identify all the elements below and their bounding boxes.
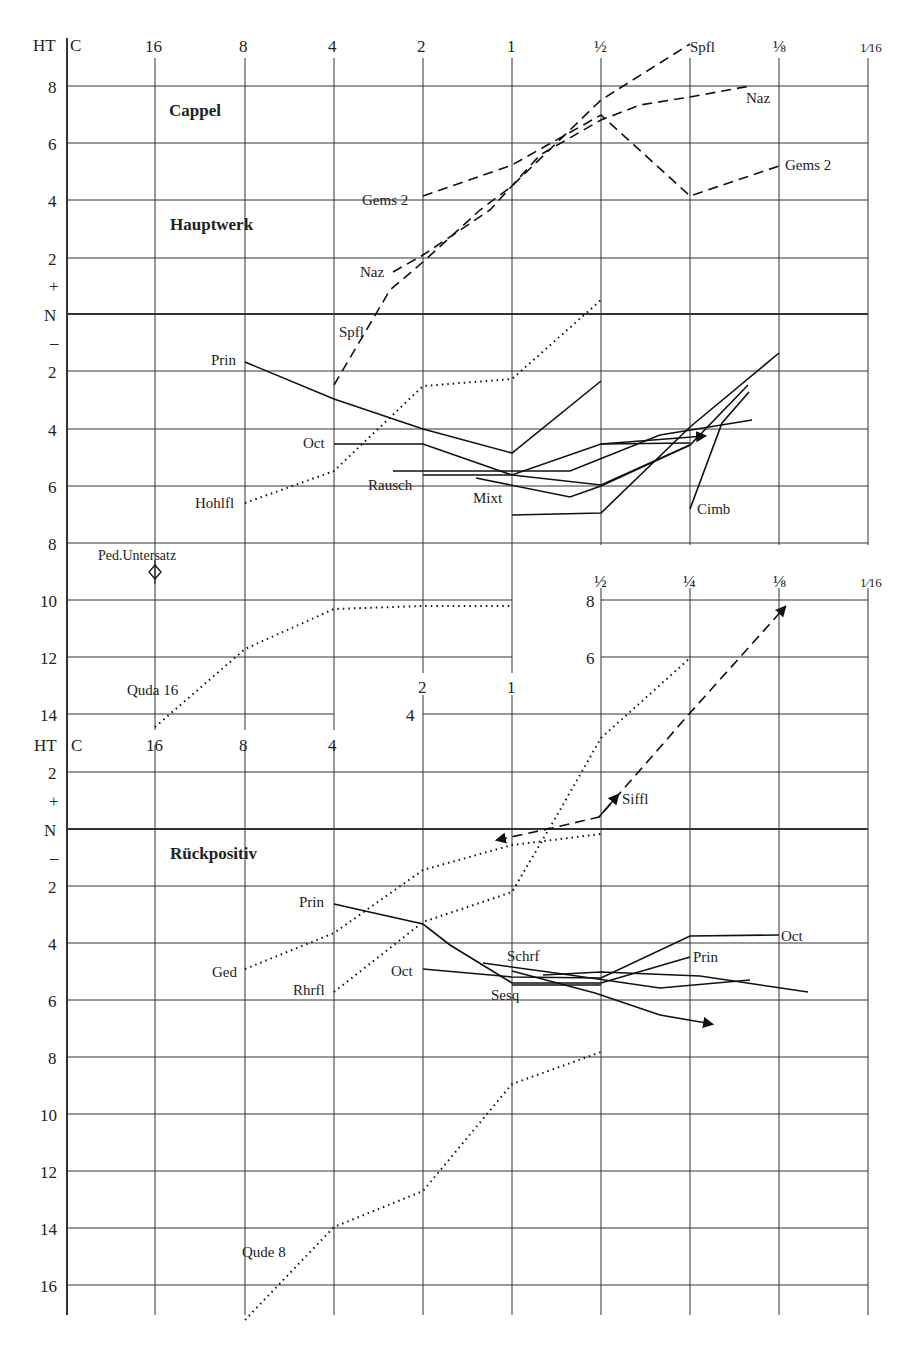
lower-y-tick-n: N [44, 821, 56, 840]
lower-y-tick-2: 2 [48, 764, 57, 783]
lower-series-labels: Siffl Prin Ged Rhrfl Oct Schrf Sesq Oct … [212, 791, 803, 1260]
inset-x-sixteenth: 1⁄16 [860, 575, 882, 590]
lower-c-label: C [71, 736, 82, 755]
lower-y-tick-neg8: 8 [48, 1049, 57, 1068]
y-tick-neg14: 14 [40, 706, 58, 725]
title-cappel: Cappel [169, 101, 221, 120]
label-naz-left: Naz [360, 264, 384, 280]
lower-ht-label: HT [34, 736, 57, 755]
label-qude8: Qude 8 [242, 1244, 286, 1260]
lower-x-tick-16: 16 [146, 736, 163, 755]
y-tick-2: 2 [48, 250, 57, 269]
x-tick-1: 1 [507, 37, 516, 56]
lower-y-tick-neg10: 10 [40, 1106, 57, 1125]
lower-x-tick-8: 8 [239, 736, 248, 755]
label-hohlfl: Hohlfl [195, 495, 234, 511]
series-rausch [393, 420, 752, 471]
x-tick-16: 16 [145, 37, 162, 56]
y-tick-4: 4 [48, 192, 57, 211]
inset-y-8: 8 [586, 592, 595, 611]
label-cimb: Cimb [697, 501, 730, 517]
x-tick-8: 8 [239, 37, 248, 56]
inset-x-quarter: ¼ [683, 572, 696, 591]
lower-y-tick-neg4: 4 [48, 935, 57, 954]
label-siffl: Siffl [622, 791, 648, 807]
y-tick-neg8: 8 [48, 535, 57, 554]
label-quda16: Quda 16 [127, 682, 179, 698]
x-tick-4: 4 [328, 37, 337, 56]
upper-axis-labels: HT C 16 8 4 2 1 ½ ⅛ 1⁄16 8 6 4 2 + N – 2… [33, 36, 882, 725]
y-tick-neg6: 6 [48, 478, 57, 497]
label-prin-rp-right: Prin [693, 949, 719, 965]
lower-y-tick-neg14: 14 [40, 1220, 58, 1239]
label-rausch: Rausch [368, 477, 413, 493]
x-tick-2: 2 [417, 37, 426, 56]
x-tick-half: ½ [594, 37, 607, 56]
label-gems2-left: Gems 2 [362, 192, 408, 208]
series-naz [393, 86, 750, 272]
label-oct-hw: Oct [303, 435, 325, 451]
series-cimb [690, 392, 749, 509]
lower-y-tick-neg12: 12 [40, 1163, 57, 1182]
inset-x-2: 2 [418, 678, 427, 697]
label-spfl-top: Spfl [690, 39, 715, 55]
y-tick-neg12: 12 [40, 649, 57, 668]
label-sesq: Sesq [491, 987, 520, 1003]
inset-y-4: 4 [406, 706, 415, 725]
label-oct-rp-right: Oct [781, 928, 803, 944]
title-rueckpositiv: Rückpositiv [170, 844, 257, 863]
lower-y-tick-neg6: 6 [48, 992, 57, 1011]
label-prin-hw: Prin [211, 352, 237, 368]
inset-x-half: ½ [594, 572, 607, 591]
lower-grid [67, 730, 868, 1315]
upper-series-labels: Gems 2 Gems 2 Naz Naz Spfl Spfl Prin Oct… [98, 39, 831, 698]
lower-y-tick-neg16: 16 [40, 1277, 57, 1296]
label-prin-rp-left: Prin [299, 894, 325, 910]
inset-x-eighth: ⅛ [773, 572, 786, 591]
ht-label: HT [33, 36, 56, 55]
inset-y-6: 6 [586, 649, 595, 668]
label-ged: Ged [212, 964, 237, 980]
label-oct-rp-left: Oct [391, 963, 413, 979]
series-sesq [512, 971, 712, 1024]
y-tick-minus: – [49, 333, 59, 352]
lower-axis-labels: HT C 16 8 4 2 + N – 2 4 6 8 10 12 14 16 [34, 736, 337, 1296]
label-naz-right: Naz [746, 90, 770, 106]
label-ped-untersatz: Ped.Untersatz [98, 548, 176, 563]
c-label: C [70, 36, 81, 55]
series-mixt-2 [512, 353, 779, 515]
lower-y-tick-neg2: 2 [48, 878, 57, 897]
y-tick-neg4: 4 [48, 421, 57, 440]
x-tick-eighth: ⅛ [773, 37, 786, 56]
x-tick-sixteenth: 1⁄16 [860, 40, 882, 55]
label-spfl-left: Spfl [339, 324, 364, 340]
y-tick-n: N [44, 306, 56, 325]
y-tick-plus: + [49, 277, 59, 296]
lower-x-tick-4: 4 [328, 736, 337, 755]
lower-y-tick-minus: – [49, 848, 59, 867]
y-tick-neg10: 10 [40, 592, 57, 611]
label-mixt: Mixt [473, 490, 503, 506]
title-hauptwerk: Hauptwerk [170, 215, 254, 234]
y-tick-neg2: 2 [48, 363, 57, 382]
organ-pitch-chart: HT C 16 8 4 2 1 ½ ⅛ 1⁄16 8 6 4 2 + N – 2… [0, 0, 909, 1353]
lower-y-tick-plus: + [49, 792, 59, 811]
y-tick-6: 6 [48, 135, 57, 154]
label-rhrfl: Rhrfl [293, 982, 325, 998]
label-gems2-right: Gems 2 [785, 157, 831, 173]
inset-x-1: 1 [507, 678, 516, 697]
upper-series [149, 44, 779, 727]
siffl-arrow-up [599, 795, 618, 817]
series-rausch-b [423, 385, 748, 485]
y-tick-8: 8 [48, 78, 57, 97]
label-schrf: Schrf [507, 948, 540, 964]
